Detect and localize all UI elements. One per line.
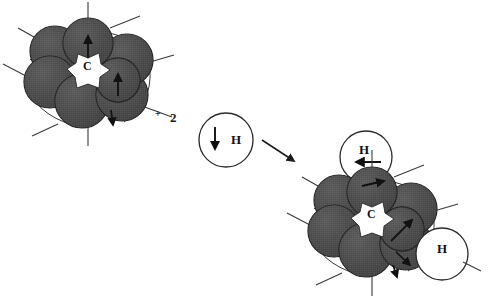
stoichiometric-coefficient: 2 [170, 110, 177, 126]
plus-sign: + [155, 108, 161, 119]
reaction-scheme-figure: + 2 H H H C C [0, 0, 490, 304]
hydrogen-label-reactant: H [231, 132, 241, 148]
carbon-label-reactant: C [83, 59, 92, 74]
hydrogen-label-product-top: H [359, 142, 369, 158]
carbon-label-product: C [367, 207, 376, 222]
reaction-diagram-canvas [0, 0, 490, 304]
metal-cluster-reactant [3, 2, 174, 146]
hydrogen-label-product-right: H [437, 241, 447, 257]
reaction-arrow [262, 140, 294, 161]
hydrogen-atom-product-right [416, 228, 481, 280]
hydrogen-atom-reactant [199, 113, 253, 167]
